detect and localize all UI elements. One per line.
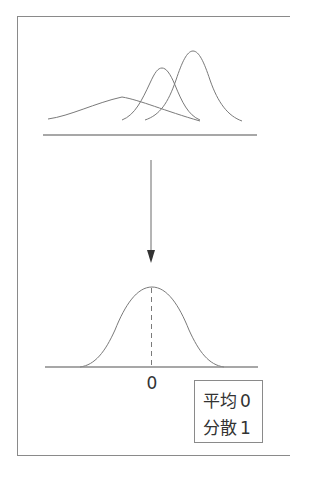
wide-low-curve xyxy=(48,97,200,121)
down-arrow-icon xyxy=(147,160,155,263)
mean-value: 0 xyxy=(240,391,251,411)
top-distributions xyxy=(43,51,257,135)
legend-box: 平均0 分散1 xyxy=(194,380,263,443)
middle-curve xyxy=(122,68,200,120)
standard-normal xyxy=(45,287,258,367)
variance-value: 1 xyxy=(240,418,251,438)
axis-zero-label: 0 xyxy=(145,373,159,393)
mean-label: 平均 xyxy=(203,391,237,411)
tall-right-curve xyxy=(145,51,242,121)
legend-variance-row: 分散1 xyxy=(203,415,262,442)
variance-label: 分散 xyxy=(203,418,237,438)
legend-mean-row: 平均0 xyxy=(203,388,262,415)
